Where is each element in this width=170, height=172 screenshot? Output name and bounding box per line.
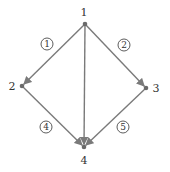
edges-layer: 1245: [22, 24, 146, 145]
node-1: [83, 22, 88, 27]
edge-label: 2: [121, 40, 127, 50]
edge-2-4: [22, 86, 82, 145]
edge-label: 5: [120, 122, 126, 132]
node-label: 2: [9, 80, 16, 93]
edge-1-2: [24, 24, 85, 84]
node-3: [144, 86, 149, 91]
node-4: [82, 145, 87, 150]
edge-label: 4: [43, 122, 49, 132]
graph-diagram: 1245 1234: [0, 0, 170, 172]
edge-label: 1: [44, 39, 50, 49]
node-2: [20, 84, 25, 89]
node-label: 1: [81, 6, 88, 19]
node-label: 3: [153, 82, 160, 95]
node-label: 4: [81, 154, 88, 167]
edge-1-3: [85, 24, 144, 86]
edge-1-4: [84, 24, 85, 145]
edge-3-4: [86, 88, 146, 145]
